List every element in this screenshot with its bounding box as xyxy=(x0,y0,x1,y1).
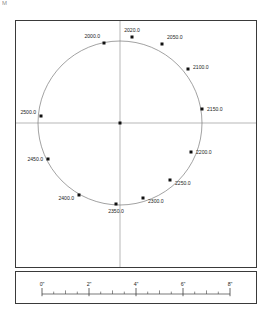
center-marker[interactable] xyxy=(119,122,122,125)
scale-bar-canvas: 0"2"4"6"8" xyxy=(16,272,256,303)
station-point-2150-0[interactable] xyxy=(201,108,204,111)
station-label-2200-0: 2200.0 xyxy=(196,149,212,155)
station-point-2050-0[interactable] xyxy=(161,43,164,46)
station-point-2250-0[interactable] xyxy=(169,179,172,182)
station-label-2450-0: 2450.0 xyxy=(27,156,43,162)
scale-bar-frame: 0"2"4"6"8" xyxy=(15,271,257,304)
station-label-2050-0: 2050.0 xyxy=(167,34,183,40)
station-label-2100-0: 2100.0 xyxy=(193,64,209,70)
station-point-2300-0[interactable] xyxy=(142,197,145,200)
station-point-2100-0[interactable] xyxy=(187,68,190,71)
station-points-group[interactable]: 2000.02020.02050.02100.02150.02200.02250… xyxy=(20,27,222,214)
station-label-2000-0: 2000.0 xyxy=(84,33,100,39)
scale-tick-label-3: 6" xyxy=(181,281,186,287)
scale-tick-label-1: 2" xyxy=(87,281,92,287)
scale-bar-group: 0"2"4"6"8" xyxy=(40,281,233,296)
station-label-2250-0: 2250.0 xyxy=(175,180,191,186)
corner-artifact-mark: M xyxy=(2,1,11,6)
station-label-2020-0: 2020.0 xyxy=(124,27,140,33)
station-point-2500-0[interactable] xyxy=(40,115,43,118)
drawing-sheet: M 2000.02020.02050.02100.02150.02200.022… xyxy=(0,0,274,314)
plot-canvas: 2000.02020.02050.02100.02150.02200.02250… xyxy=(16,21,256,267)
station-point-2400-0[interactable] xyxy=(78,194,81,197)
station-label-2300-0: 2300.0 xyxy=(148,198,164,204)
station-label-2350-0: 2350.0 xyxy=(108,208,124,214)
station-label-2150-0: 2150.0 xyxy=(207,106,223,112)
plot-frame: 2000.02020.02050.02100.02150.02200.02250… xyxy=(15,20,257,268)
scale-tick-label-2: 4" xyxy=(134,281,139,287)
station-point-2350-0[interactable] xyxy=(115,203,118,206)
station-point-2020-0[interactable] xyxy=(131,36,134,39)
station-label-2400-0: 2400.0 xyxy=(58,195,74,201)
station-point-2000-0[interactable] xyxy=(103,42,106,45)
scale-tick-label-4: 8" xyxy=(228,281,233,287)
station-label-2500-0: 2500.0 xyxy=(20,109,36,115)
station-point-2450-0[interactable] xyxy=(47,158,50,161)
crosshair-axes xyxy=(16,21,256,267)
station-point-2200-0[interactable] xyxy=(190,151,193,154)
scale-tick-label-0: 0" xyxy=(40,281,45,287)
